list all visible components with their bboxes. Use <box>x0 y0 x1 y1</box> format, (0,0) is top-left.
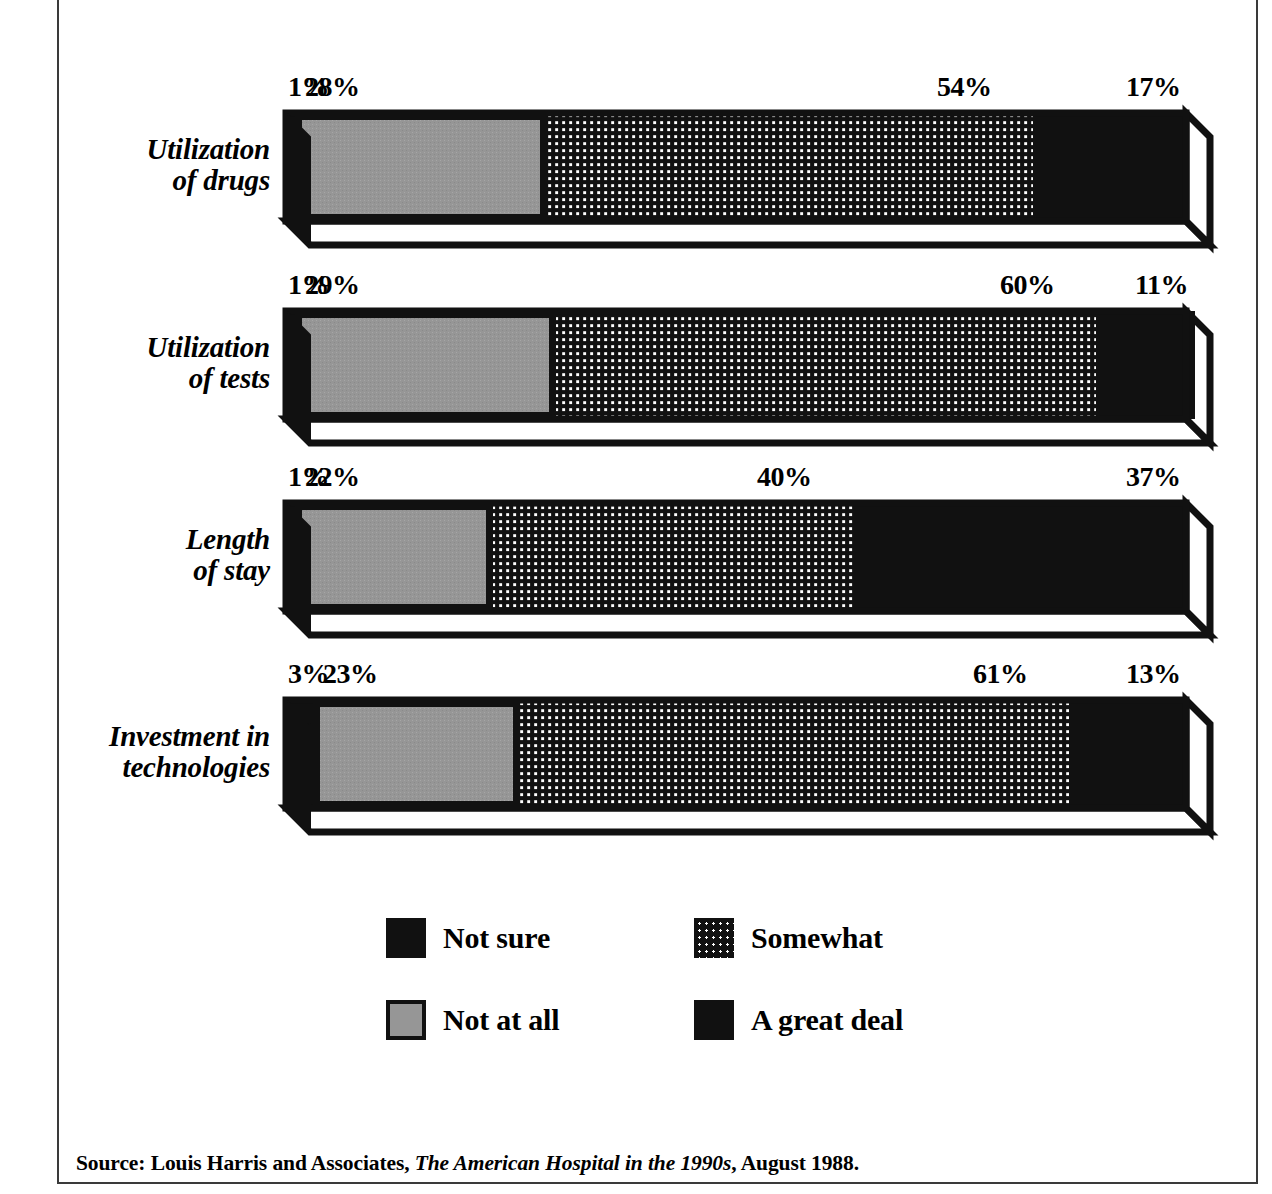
source-publication-title: The American Hospital in the 1990s <box>415 1151 732 1175</box>
bar-segment-percent-label: 61% <box>973 658 1028 690</box>
legend-label: Not sure <box>443 921 550 955</box>
legend-swatch-solid-black <box>386 918 426 958</box>
source-prefix: Source: Louis Harris and Associates, <box>76 1151 415 1175</box>
legend-swatch-solid-gray <box>386 1000 426 1040</box>
legend-item[interactable]: Not sure <box>386 918 550 958</box>
source-note: Source: Louis Harris and Associates, The… <box>76 1151 859 1176</box>
bar-segment-percent-label: 13% <box>1126 658 1181 690</box>
bar-segment-percent-label: 23% <box>323 658 378 690</box>
legend-swatch-dotted-grid <box>694 918 734 958</box>
legend-label: A great deal <box>751 1003 903 1037</box>
legend-label: Somewhat <box>751 921 883 955</box>
chart-legend: Not sureSomewhatNot at allA great deal <box>386 918 1006 1048</box>
bar-segment <box>520 700 1069 808</box>
legend-item[interactable]: A great deal <box>694 1000 903 1040</box>
legend-label: Not at all <box>443 1003 559 1037</box>
legend-item[interactable]: Not at all <box>386 1000 559 1040</box>
source-suffix: , August 1988. <box>731 1151 859 1175</box>
legend-item[interactable]: Somewhat <box>694 918 883 958</box>
bar-segment <box>1069 700 1186 808</box>
legend-swatch-solid-black <box>694 1000 734 1040</box>
